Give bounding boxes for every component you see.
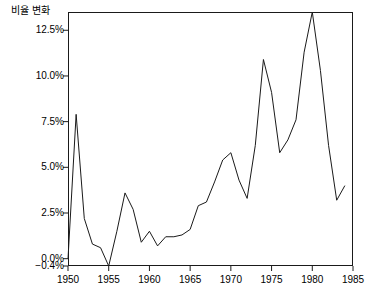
- y-axis-tick-label: 0.0%: [12, 253, 64, 264]
- x-axis-tick-label: 1955: [89, 274, 129, 285]
- data-line-rate-of-change: [68, 12, 345, 266]
- x-axis-tick-label: 1960: [129, 274, 169, 285]
- y-axis-tick-label: 10.0%: [12, 70, 64, 81]
- x-axis-tick-label: 1985: [333, 274, 369, 285]
- y-axis-ticks: [63, 30, 68, 266]
- data-series-group: [68, 12, 345, 266]
- x-axis-ticks: [68, 266, 353, 271]
- y-axis-tick-label: 12.5%: [12, 24, 64, 35]
- y-axis-tick-label: 5.0%: [12, 161, 64, 172]
- x-axis-tick-label: 1965: [170, 274, 210, 285]
- x-axis-tick-label: 1975: [252, 274, 292, 285]
- x-axis-tick-label: 1970: [211, 274, 251, 285]
- x-axis-tick-label: 1950: [48, 274, 88, 285]
- x-axis-tick-label: 1980: [292, 274, 332, 285]
- y-axis-tick-label: 2.5%: [12, 207, 64, 218]
- y-axis-tick-label: 7.5%: [12, 116, 64, 127]
- chart-container: 비율 변화 −0.4%0.0%2.5%5.0%7.5%10.0%12.5% 19…: [0, 0, 369, 298]
